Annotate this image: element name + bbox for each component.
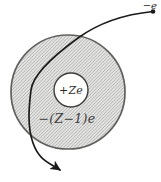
atom-scattering-figure: −e +Ze −(Z−1)e	[0, 0, 161, 182]
electron-cloud-label: −(Z−1)e	[39, 111, 96, 126]
incident-electron-label: −e	[143, 0, 157, 11]
atom-scattering-diagram: −e +Ze −(Z−1)e	[0, 0, 161, 182]
nucleus-label: +Ze	[59, 84, 83, 97]
